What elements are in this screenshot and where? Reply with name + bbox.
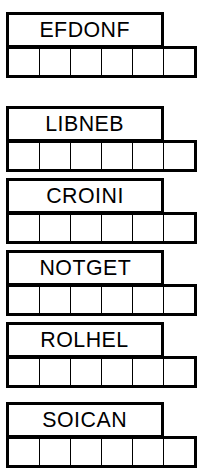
answer-cell[interactable] bbox=[40, 143, 71, 169]
answer-cell[interactable] bbox=[9, 439, 40, 465]
answer-row bbox=[6, 140, 197, 172]
answer-cell[interactable] bbox=[71, 287, 102, 313]
answer-cell[interactable] bbox=[164, 287, 194, 313]
scrambled-word-box: LIBNEB bbox=[6, 106, 164, 142]
answer-cell[interactable] bbox=[102, 359, 133, 385]
answer-row bbox=[6, 284, 197, 316]
answer-cell[interactable] bbox=[133, 49, 164, 75]
answer-cell[interactable] bbox=[9, 49, 40, 75]
scrambled-word-text: NOTGET bbox=[39, 257, 131, 279]
scrambled-word-text: EFDONF bbox=[40, 19, 131, 41]
answer-cell[interactable] bbox=[164, 49, 194, 75]
answer-cell[interactable] bbox=[133, 215, 164, 241]
answer-cell[interactable] bbox=[133, 359, 164, 385]
answer-cell[interactable] bbox=[164, 439, 194, 465]
scrambled-word-box: NOTGET bbox=[6, 250, 164, 286]
answer-cell[interactable] bbox=[133, 287, 164, 313]
answer-cell[interactable] bbox=[102, 49, 133, 75]
answer-cell[interactable] bbox=[102, 439, 133, 465]
answer-cell[interactable] bbox=[102, 143, 133, 169]
scrambled-word-box: CROINI bbox=[6, 178, 164, 214]
scrambled-word-text: ROLHEL bbox=[41, 329, 129, 351]
answer-cell[interactable] bbox=[9, 215, 40, 241]
answer-cell[interactable] bbox=[9, 287, 40, 313]
answer-row bbox=[6, 436, 197, 468]
answer-cell[interactable] bbox=[40, 49, 71, 75]
scrambled-word-text: LIBNEB bbox=[46, 113, 125, 135]
answer-row bbox=[6, 46, 197, 78]
answer-cell[interactable] bbox=[9, 359, 40, 385]
answer-cell[interactable] bbox=[133, 143, 164, 169]
answer-cell[interactable] bbox=[164, 359, 194, 385]
answer-cell[interactable] bbox=[9, 143, 40, 169]
scrambled-word-box: EFDONF bbox=[6, 12, 164, 48]
answer-cell[interactable] bbox=[40, 439, 71, 465]
answer-cell[interactable] bbox=[71, 215, 102, 241]
answer-cell[interactable] bbox=[71, 143, 102, 169]
answer-cell[interactable] bbox=[71, 359, 102, 385]
answer-cell[interactable] bbox=[71, 439, 102, 465]
scrambled-word-text: SOICAN bbox=[43, 409, 128, 431]
answer-cell[interactable] bbox=[164, 215, 194, 241]
answer-cell[interactable] bbox=[102, 215, 133, 241]
answer-cell[interactable] bbox=[164, 143, 194, 169]
scrambled-word-box: ROLHEL bbox=[6, 322, 164, 358]
puzzle-sheet: EFDONFLIBNEBCROININOTGETROLHELSOICAN bbox=[0, 0, 203, 476]
answer-cell[interactable] bbox=[71, 49, 102, 75]
scrambled-word-text: CROINI bbox=[46, 185, 124, 207]
answer-cell[interactable] bbox=[133, 439, 164, 465]
answer-row bbox=[6, 212, 197, 244]
answer-cell[interactable] bbox=[40, 287, 71, 313]
answer-cell[interactable] bbox=[102, 287, 133, 313]
scrambled-word-box: SOICAN bbox=[6, 402, 164, 438]
answer-cell[interactable] bbox=[40, 359, 71, 385]
answer-cell[interactable] bbox=[40, 215, 71, 241]
answer-row bbox=[6, 356, 197, 388]
